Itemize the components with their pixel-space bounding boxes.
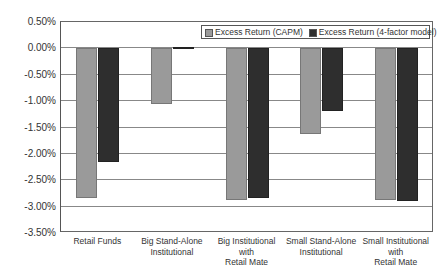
plot-area (60, 21, 433, 232)
gridline (61, 206, 432, 207)
legend-swatch-capm (205, 29, 213, 37)
x-tick-label: Small Stand-AloneInstitutional (281, 236, 361, 257)
legend-swatch-4factor (309, 29, 317, 37)
x-tick-label: Big Stand-AloneInstitutional (132, 236, 212, 257)
bar-4factor (397, 48, 418, 201)
y-tick-label: -0.50% (24, 68, 56, 79)
x-tick-label: Big InstitutionalwithRetail Mate (207, 236, 287, 268)
y-tick-label: -3.00% (24, 200, 56, 211)
legend-item-capm: Excess Return (CAPM) (205, 27, 303, 37)
y-tick-label: 0.50% (28, 16, 56, 27)
y-tick-label: -1.00% (24, 95, 56, 106)
bar-capm (226, 48, 247, 200)
y-tick-label: 0.00% (28, 42, 56, 53)
legend-item-4factor: Excess Return (4-factor model) (309, 27, 437, 37)
bar-4factor (322, 48, 343, 111)
bar-capm (151, 48, 172, 104)
bar-4factor (248, 48, 269, 197)
y-tick-label: -2.00% (24, 147, 56, 158)
legend: Excess Return (CAPM) Excess Return (4-fa… (201, 25, 430, 39)
bar-4factor (98, 48, 119, 162)
x-tick-label: Small InstitutionalwithRetail Mate (356, 236, 436, 268)
bar-4factor (173, 47, 194, 49)
bar-capm (76, 48, 97, 197)
y-tick-label: -3.50% (24, 227, 56, 238)
bar-capm (300, 48, 321, 134)
x-tick-label: Retail Funds (57, 236, 137, 247)
y-tick-label: -1.50% (24, 121, 56, 132)
y-tick-label: -2.50% (24, 174, 56, 185)
bar-capm (375, 48, 396, 200)
